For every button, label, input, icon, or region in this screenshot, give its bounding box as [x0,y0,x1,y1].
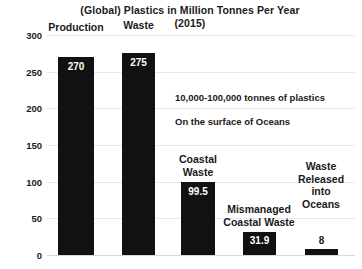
bar-production[interactable]: 270 [58,57,94,255]
bar-label-waste-released-into-oceans: Waste Released into Oceans [298,160,344,210]
y-axis-tick-50: 50 [0,213,42,224]
chart-title-line-1: (Global) Plastics in Million Tonnes Per … [40,4,340,17]
y-axis-tick-0: 0 [0,250,42,261]
bar-label-waste: Waste [123,19,154,32]
ocean-surface-annotation-line-2: On the surface of Oceans [175,116,325,128]
y-axis-tick-300: 300 [0,30,42,41]
plot-area: 300 250 200 150 100 50 0 270 Production … [47,35,355,255]
bar-chart: (Global) Plastics in Million Tonnes Per … [0,0,362,269]
bar-value-mismanaged-coastal-waste: 31.9 [250,235,269,247]
y-axis-tick-100: 100 [0,176,42,187]
bar-mismanaged-coastal-waste[interactable]: 31.9 [243,232,276,255]
bar-coastal-waste[interactable]: 99.5 [181,182,215,255]
bar-value-waste: 275 [130,57,147,69]
y-axis-tick-200: 200 [0,103,42,114]
y-axis-tick-250: 250 [0,66,42,77]
ocean-surface-annotation: 10,000-100,000 tonnes of plastics On the… [175,80,325,140]
y-axis-tick-150: 150 [0,140,42,151]
bar-waste[interactable]: 275 [122,53,155,255]
bar-label-production: Production [48,21,103,34]
gridline-0: 0 [47,255,355,256]
bar-waste-released-into-oceans[interactable]: 8 [305,249,338,255]
bar-label-mismanaged-coastal-waste: Mismanaged Coastal Waste [223,203,294,228]
bar-value-waste-released-into-oceans: 8 [319,235,325,247]
bar-label-coastal-waste: Coastal Waste [179,153,217,178]
ocean-surface-annotation-line-1: 10,000-100,000 tonnes of plastics [175,92,325,104]
bar-value-production: 270 [68,61,85,73]
gridline-300: 300 [47,35,355,36]
bar-value-coastal-waste: 99.5 [188,186,207,198]
